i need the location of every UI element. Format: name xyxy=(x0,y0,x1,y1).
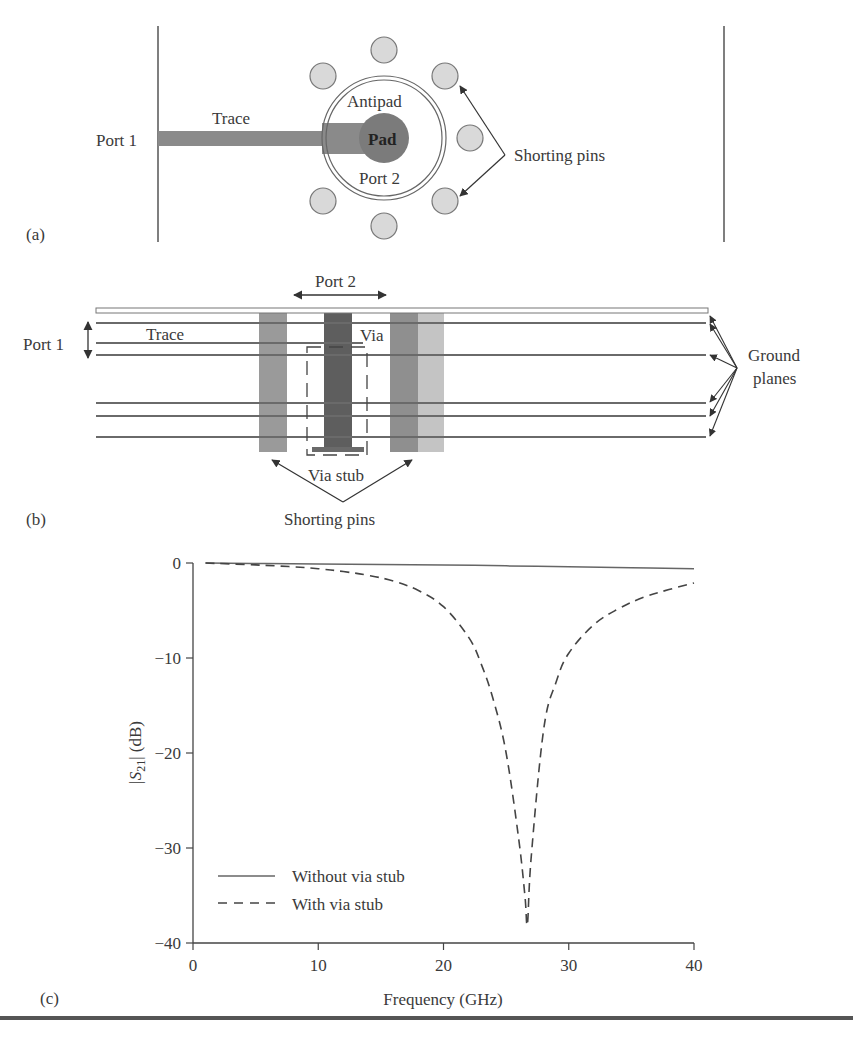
trace-label: Trace xyxy=(212,109,250,128)
shorting-pin xyxy=(371,37,397,63)
series-with-via-stub xyxy=(206,563,694,925)
legend-label-without-via-stub: Without via stub xyxy=(292,867,405,886)
panel-b-cross-section: Port 1 Port 2 Trace Via Via stub Shortin… xyxy=(23,272,800,529)
y-axis-ticks: 0−10−20−30−40 xyxy=(154,554,193,953)
shorting-pin xyxy=(371,213,397,239)
x-tick-label: 0 xyxy=(189,956,198,975)
port2-label: Port 2 xyxy=(359,169,400,188)
x-axis-label: Frequency (GHz) xyxy=(383,990,502,1009)
ground-arrow xyxy=(710,368,737,402)
shorting-pin-column-left xyxy=(259,308,287,452)
y-tick-label: −30 xyxy=(154,839,181,858)
port1-label: Port 1 xyxy=(96,131,137,150)
port2-label: Port 2 xyxy=(315,272,356,291)
shorting-pin xyxy=(432,63,458,89)
ground-plane-arrows xyxy=(710,316,737,436)
y-tick-label: 0 xyxy=(173,554,182,573)
panel-c-label: (c) xyxy=(40,989,59,1008)
ground-arrow xyxy=(710,316,737,368)
panel-a-top-view: Port 1 Trace Antipad Pad Port 2 Shorting… xyxy=(26,26,724,244)
x-tick-label: 40 xyxy=(686,956,703,975)
ground-arrow xyxy=(710,368,737,416)
x-tick-label: 20 xyxy=(435,956,452,975)
antipad-label: Antipad xyxy=(347,92,402,111)
top-layer-outline xyxy=(96,308,708,313)
via-bottom-pad xyxy=(312,447,364,452)
pad-label: Pad xyxy=(368,130,397,149)
figure-canvas: Port 1 Trace Antipad Pad Port 2 Shorting… xyxy=(0,0,853,1044)
trace-strip xyxy=(158,131,328,146)
ground-planes-label-line1: Ground xyxy=(748,346,800,365)
port1-label: Port 1 xyxy=(23,335,64,354)
ground-planes-label-line2: planes xyxy=(753,369,796,388)
shorting-pin-column-right-dark xyxy=(390,308,418,452)
pin-arrow-lower xyxy=(460,155,505,196)
y-tick-label: −10 xyxy=(154,649,181,668)
shorting-pin xyxy=(310,63,336,89)
caption-divider xyxy=(0,1016,853,1020)
shorting-pin xyxy=(310,188,336,214)
via-label: Via xyxy=(360,326,384,345)
panel-a-label: (a) xyxy=(26,225,45,244)
y-tick-label: −20 xyxy=(154,744,181,763)
shorting-pin xyxy=(457,125,483,151)
ground-arrow xyxy=(710,368,737,436)
shorting-pins-label: Shorting pins xyxy=(514,146,605,165)
panel-c-chart: 0−10−20−30−40 010203040 Without via stub… xyxy=(40,554,703,1009)
shorting-pin-column-right-light xyxy=(418,308,444,452)
shorting-pin xyxy=(432,188,458,214)
y-axis-label: |S21| (dB) xyxy=(126,721,148,785)
series-without-via-stub xyxy=(206,563,694,569)
legend-label-with-via-stub: With via stub xyxy=(292,895,383,914)
panel-b-label: (b) xyxy=(26,510,46,529)
shorting-pins-label: Shorting pins xyxy=(284,510,375,529)
trace-label: Trace xyxy=(146,325,184,344)
via-barrel xyxy=(324,311,352,451)
x-axis-ticks: 010203040 xyxy=(189,943,703,975)
x-tick-label: 10 xyxy=(310,956,327,975)
x-tick-label: 30 xyxy=(560,956,577,975)
legend: Without via stub With via stub xyxy=(218,867,405,914)
via-stub-label: Via stub xyxy=(308,466,364,485)
y-tick-label: −40 xyxy=(154,934,181,953)
